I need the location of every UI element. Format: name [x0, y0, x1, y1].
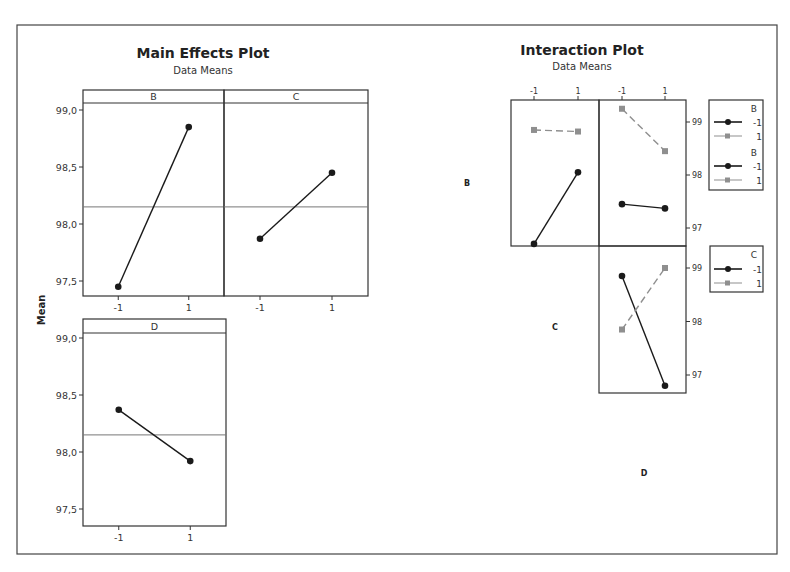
legend-circle-marker	[725, 119, 731, 125]
series-line-solid	[622, 276, 665, 386]
legend-title: B	[751, 148, 757, 158]
series-line-dashed	[622, 268, 665, 330]
legend-circle-marker	[725, 163, 731, 169]
strip-label: B	[150, 91, 157, 102]
effect-line	[119, 410, 191, 461]
y-tick-label: 97	[692, 371, 702, 380]
interaction-subtitle: Data Means	[552, 61, 612, 72]
y-tick-label: 99	[692, 264, 702, 273]
panel-border	[599, 246, 686, 393]
circle-marker	[619, 273, 626, 280]
square-marker	[662, 265, 668, 271]
data-point	[115, 283, 122, 290]
circle-marker	[575, 169, 582, 176]
square-marker	[619, 327, 625, 333]
legend-c: C-11	[710, 246, 763, 292]
legend-b: B-11B-11	[709, 100, 763, 190]
y-tick-label: 99,0	[56, 333, 77, 344]
legend-label: -1	[753, 162, 762, 172]
legend-label: -1	[753, 265, 762, 275]
y-tick-label: 98,5	[56, 162, 77, 173]
panel-border	[511, 100, 599, 246]
x-tick-label: 1	[187, 532, 193, 543]
y-axis-label: Mean	[36, 295, 47, 326]
series-line-solid	[534, 172, 578, 244]
square-marker	[531, 127, 537, 133]
legend-square-marker	[725, 178, 730, 183]
strip-label: C	[293, 91, 300, 102]
y-tick-label: 97	[692, 224, 702, 233]
interaction-plot: -11-11999897999897B-11B-11C-11	[511, 87, 763, 393]
panel-border	[599, 100, 686, 246]
row-label-c: C	[552, 323, 558, 332]
square-marker	[575, 129, 581, 135]
data-point	[185, 124, 192, 131]
y-tick-label: 97,5	[56, 504, 77, 515]
panel-border	[83, 90, 224, 296]
y-tick-label: 98,0	[56, 447, 77, 458]
series-line-dashed	[622, 109, 665, 151]
x-tick-label: 1	[186, 302, 192, 313]
legend-circle-marker	[725, 266, 731, 272]
legend-label: 1	[756, 176, 762, 186]
data-point	[187, 458, 194, 465]
interaction-panel-b-c: -11	[511, 87, 599, 247]
main-effects-subtitle: Data Means	[173, 65, 233, 76]
legend-label: 1	[756, 132, 762, 142]
row-label-d: D	[641, 469, 648, 478]
legend-square-marker	[725, 281, 730, 286]
legend-label: 1	[756, 279, 762, 289]
data-point	[257, 236, 264, 243]
x-tick-label: -1	[530, 87, 538, 96]
figure-frame	[17, 25, 777, 554]
main-effect-panel-d: D-1199,098,598,097,5	[56, 319, 226, 543]
interaction-panel-b-d: -11999897	[599, 87, 702, 246]
effect-line	[260, 173, 332, 239]
series-line-dashed	[534, 130, 578, 132]
data-point	[329, 169, 336, 176]
circle-marker	[531, 241, 538, 248]
y-tick-label: 98,0	[56, 219, 77, 230]
y-tick-label: 98	[692, 318, 702, 327]
x-tick-label: -1	[618, 87, 626, 96]
square-marker	[619, 106, 625, 112]
square-marker	[662, 148, 668, 154]
x-tick-label: -1	[114, 532, 123, 543]
series-line-solid	[622, 204, 665, 208]
circle-marker	[662, 205, 669, 212]
circle-marker	[619, 201, 626, 208]
main-effects-title: Main Effects Plot	[137, 45, 270, 61]
row-label-b: B	[464, 179, 470, 188]
panel-border	[224, 90, 368, 296]
circle-marker	[662, 382, 669, 389]
legend-square-marker	[725, 134, 730, 139]
data-point	[115, 407, 122, 414]
x-tick-label: 1	[662, 87, 667, 96]
y-tick-label: 99	[692, 118, 702, 127]
y-tick-label: 98,5	[56, 390, 77, 401]
y-tick-label: 99,0	[56, 105, 77, 116]
main-effects-plot: B-1199,098,598,097,5C-11D-1199,098,598,0…	[56, 90, 368, 543]
legend-title: C	[751, 250, 757, 260]
main-effect-panel-b: B-1199,098,598,097,5	[56, 90, 224, 313]
panel-border	[83, 319, 226, 526]
x-tick-label: -1	[114, 302, 123, 313]
y-tick-label: 97,5	[56, 276, 77, 287]
legend-label: -1	[753, 118, 762, 128]
legend-title: B	[751, 104, 757, 114]
chart-canvas: Main Effects Plot Data Means Interaction…	[0, 0, 790, 572]
x-tick-label: -1	[255, 302, 264, 313]
x-tick-label: 1	[575, 87, 580, 96]
main-effect-panel-c: C-11	[224, 90, 368, 313]
y-tick-label: 98	[692, 171, 702, 180]
interaction-panel-c-d: 999897	[599, 246, 702, 393]
interaction-title: Interaction Plot	[520, 42, 644, 58]
x-tick-label: 1	[329, 302, 335, 313]
strip-label: D	[151, 321, 158, 332]
